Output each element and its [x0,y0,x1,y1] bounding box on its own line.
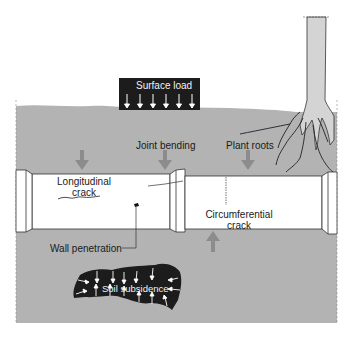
plant-roots-label: Plant roots [226,140,274,151]
circumferential-crack-label: Circumferential crack [202,209,276,231]
longitudinal-crack-label: Longitudinal crack [56,176,112,198]
soil-subsidence-label: Soil subsidence [102,283,169,294]
pipe-joint [170,169,185,232]
surface-load-label: Surface load [136,80,192,91]
longitudinal-crack-label-line1: Longitudinal [56,176,112,187]
pipe-failure-diagram [0,0,352,340]
longitudinal-crack-label-line2: crack [56,187,112,198]
circumferential-crack-label-line2: crack [202,220,276,231]
joint-bending-label: Joint bending [136,140,196,151]
wall-penetration-label: Wall penetration [50,243,122,254]
circumferential-crack-label-line1: Circumferential [202,209,276,220]
